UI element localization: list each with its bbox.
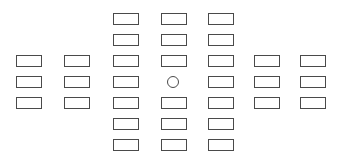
grid-rectangle (254, 97, 280, 109)
grid-rectangle (208, 97, 234, 109)
grid-rectangle (208, 118, 234, 130)
grid-rectangle (113, 118, 139, 130)
grid-rectangle (64, 55, 90, 67)
grid-rectangle (300, 97, 326, 109)
grid-rectangle (300, 76, 326, 88)
grid-rectangle (113, 139, 139, 151)
grid-rectangle (64, 76, 90, 88)
center-circle-marker (167, 76, 179, 88)
grid-diagram (0, 0, 343, 166)
grid-rectangle (16, 97, 42, 109)
grid-rectangle (113, 97, 139, 109)
grid-rectangle (113, 55, 139, 67)
grid-rectangle (254, 55, 280, 67)
grid-rectangle (208, 55, 234, 67)
grid-rectangle (208, 13, 234, 25)
grid-rectangle (161, 97, 187, 109)
grid-rectangle (161, 139, 187, 151)
grid-rectangle (161, 13, 187, 25)
grid-rectangle (208, 76, 234, 88)
grid-rectangle (300, 55, 326, 67)
grid-rectangle (208, 139, 234, 151)
grid-rectangle (208, 34, 234, 46)
grid-rectangle (161, 118, 187, 130)
grid-rectangle (64, 97, 90, 109)
grid-rectangle (113, 34, 139, 46)
grid-rectangle (254, 76, 280, 88)
grid-rectangle (16, 55, 42, 67)
grid-rectangle (161, 55, 187, 67)
grid-rectangle (16, 76, 42, 88)
grid-rectangle (113, 76, 139, 88)
grid-rectangle (161, 34, 187, 46)
grid-rectangle (113, 13, 139, 25)
